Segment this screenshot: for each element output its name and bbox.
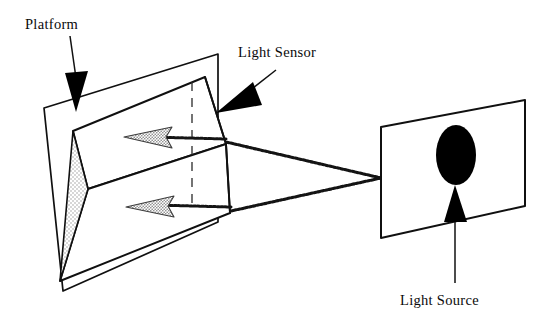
light-ray-upper <box>226 142 381 178</box>
light-sensor-label: Light Sensor <box>238 44 316 60</box>
light-source-label: Light Source <box>400 292 479 308</box>
light-ray-lower <box>231 178 381 211</box>
platform-label: Platform <box>25 16 79 32</box>
platform-callout-leader <box>70 36 76 78</box>
light-rays <box>226 142 381 211</box>
platform-callout: Platform <box>25 16 88 112</box>
diagram-canvas: Platform Light Sensor Light Source <box>0 0 558 334</box>
light-sensor-callout: Light Sensor <box>216 44 316 113</box>
technical-diagram: Platform Light Sensor Light Source <box>0 0 558 334</box>
light-emitter-ellipse <box>436 125 476 185</box>
